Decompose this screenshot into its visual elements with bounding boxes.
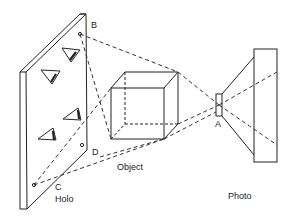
ray-lines — [34, 34, 277, 185]
eye-icon — [63, 108, 81, 120]
label-holo: Holo — [55, 195, 74, 204]
label-point-c: C — [55, 183, 62, 192]
label-point-a: A — [215, 120, 221, 129]
eye-icon — [41, 70, 60, 84]
point-d-marker — [80, 143, 83, 146]
label-point-b: B — [91, 21, 97, 30]
holo-plate — [20, 14, 87, 209]
diagram-drawing — [0, 0, 292, 217]
diagram-canvas: B D C Holo Object A Photo — [0, 0, 292, 217]
film-plate — [254, 49, 277, 162]
eye-icon — [62, 48, 80, 62]
photo-camera — [216, 49, 277, 162]
eye-icon — [38, 128, 56, 140]
label-point-d: D — [92, 148, 99, 157]
object-cube — [111, 72, 178, 139]
label-object: Object — [117, 163, 143, 172]
label-photo: Photo — [228, 192, 252, 201]
